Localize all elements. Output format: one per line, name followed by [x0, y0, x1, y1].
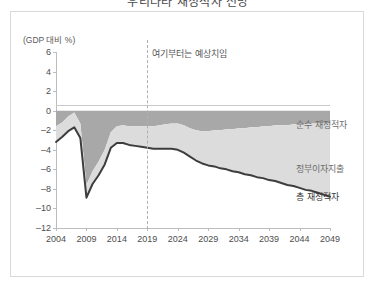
x-tick-label: 2019: [132, 234, 162, 244]
x-tick-label: 2049: [315, 234, 345, 244]
x-tick-mark: [330, 228, 331, 231]
plot-area: [56, 52, 330, 228]
y-tick-label: 6: [21, 47, 51, 57]
x-tick-label: 2044: [285, 234, 315, 244]
x-tick-label: 2009: [71, 234, 101, 244]
legend-item-net-deficit: 순수 재정적자: [296, 118, 347, 131]
projection-divider-line: [147, 40, 148, 229]
projection-note-label: 여기부터는 예상치임: [152, 47, 227, 60]
x-axis-line: [56, 228, 330, 229]
y-tick-label: –8: [21, 184, 51, 194]
legend-item-total-deficit: 총 재정적자: [296, 190, 339, 203]
series-layer: [56, 52, 330, 228]
y-tick-label: –6: [21, 164, 51, 174]
y-tick-label: –12: [21, 223, 51, 233]
x-tick-label: 2024: [163, 234, 193, 244]
x-tick-label: 2034: [224, 234, 254, 244]
x-tick-label: 2029: [193, 234, 223, 244]
x-tick-label: 2014: [102, 234, 132, 244]
x-tick-label: 2004: [41, 234, 71, 244]
chart-screenshot: 우리나라 재정적자 전망 (GDP 대비 %) 6420–2–4–6–8–10–…: [0, 0, 376, 290]
y-tick-label: –4: [21, 145, 51, 155]
y-tick-label: 4: [21, 67, 51, 77]
y-tick-label: 2: [21, 86, 51, 96]
y-tick-label: 0: [21, 106, 51, 116]
y-tick-label: –10: [21, 203, 51, 213]
x-tick-label: 2039: [254, 234, 284, 244]
legend-item-interest-expense: 정부이자지출: [296, 162, 344, 175]
y-tick-label: –2: [21, 125, 51, 135]
